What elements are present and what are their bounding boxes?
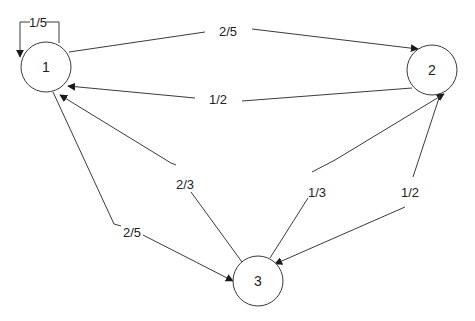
edge-2-to-1: 1/2 bbox=[68, 86, 412, 107]
state-transition-diagram: 1/5 2/5 1/2 2/3 2/5 1/3 1/2 1 2 3 bbox=[0, 0, 475, 321]
node-2-label: 2 bbox=[428, 62, 436, 78]
node-1-label: 1 bbox=[42, 59, 50, 75]
edge-3-to-1: 2/3 bbox=[60, 95, 242, 262]
edge-label-1-to-2: 2/5 bbox=[219, 24, 237, 39]
edge-label-3-to-1: 2/3 bbox=[176, 177, 194, 192]
node-3: 3 bbox=[233, 256, 283, 306]
edge-2-to-3: 1/2 bbox=[275, 95, 440, 264]
edge-label-1-to-3: 2/5 bbox=[123, 225, 141, 240]
edge-3-to-2: 1/3 bbox=[270, 94, 444, 258]
edge-label-2-to-1: 1/2 bbox=[209, 92, 227, 107]
edge-label-1-to-1: 1/5 bbox=[29, 15, 47, 30]
node-2: 2 bbox=[407, 45, 457, 95]
edge-1-to-2: 2/5 bbox=[69, 24, 418, 53]
edge-label-2-to-3: 1/2 bbox=[401, 185, 419, 200]
node-1: 1 bbox=[21, 42, 71, 92]
edge-label-3-to-2: 1/3 bbox=[308, 185, 326, 200]
edge-1-to-3: 2/5 bbox=[53, 92, 233, 281]
node-3-label: 3 bbox=[254, 273, 262, 289]
